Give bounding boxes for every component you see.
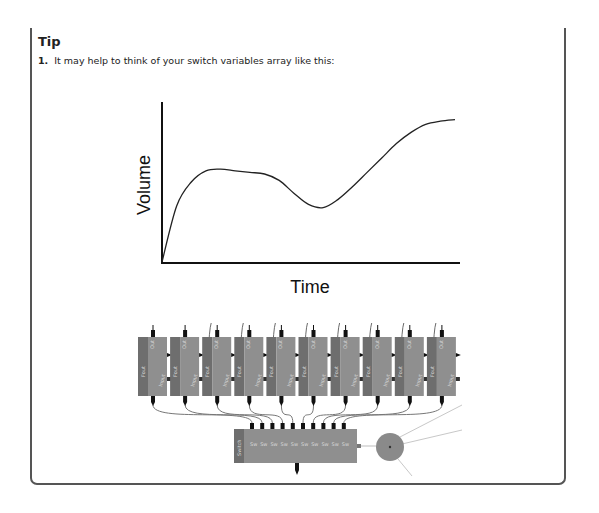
arrow-icon xyxy=(440,402,444,406)
array-input-terminal-icon xyxy=(321,423,325,429)
terminal-icon xyxy=(408,396,412,402)
y-axis-label: Volume xyxy=(134,155,154,215)
arrow-icon xyxy=(344,402,348,406)
x-axis-label: Time xyxy=(290,277,329,297)
arrow-icon xyxy=(279,402,283,406)
node-port-label: Out xyxy=(406,340,412,349)
array-input-terminal-icon xyxy=(270,423,274,429)
node-port-label: Out xyxy=(245,340,251,349)
terminal-icon xyxy=(357,444,361,448)
node-port-label: Out xyxy=(342,340,348,349)
node-label: Fout xyxy=(301,366,307,377)
array-input-label: Sw xyxy=(291,441,298,447)
terminal-icon xyxy=(312,396,316,402)
node-label: Fout xyxy=(204,366,210,377)
terminal-icon xyxy=(376,330,380,337)
figure: Volume Time FoutOutInputFoutOutInputFout… xyxy=(0,0,599,513)
array-input-label: Sw xyxy=(311,441,318,447)
node-label: Fout xyxy=(268,366,274,377)
terminal-icon xyxy=(151,396,155,402)
terminal-icon xyxy=(183,396,187,402)
array-input-terminal-icon xyxy=(260,423,264,429)
arrow-icon xyxy=(183,402,187,406)
arrow-icon xyxy=(408,402,412,406)
node-port-label: Out xyxy=(149,340,155,349)
terminal-icon xyxy=(440,330,444,337)
node-label: Fout xyxy=(333,366,339,377)
volume-curve xyxy=(162,120,455,262)
terminal-icon xyxy=(456,377,460,381)
arrow-icon xyxy=(376,402,380,406)
terminal-icon xyxy=(440,396,444,402)
node-label: Fout xyxy=(172,366,178,377)
terminal-icon xyxy=(151,330,155,337)
arrow-icon xyxy=(215,402,219,406)
terminal-icon xyxy=(344,330,348,337)
wire xyxy=(323,405,377,423)
circle-node-center xyxy=(389,446,391,448)
array-input-label: Sw xyxy=(342,441,349,447)
node-port-label: Out xyxy=(181,340,187,349)
terminal-icon xyxy=(215,396,219,402)
node-label: Fout xyxy=(397,366,403,377)
node-port-label: Out xyxy=(310,340,316,349)
node-port-label: Out xyxy=(213,340,219,349)
arrow-icon xyxy=(295,470,299,475)
array-input-label: Sw xyxy=(260,441,267,447)
terminal-icon xyxy=(183,330,187,337)
terminal-icon xyxy=(376,396,380,402)
array-input-terminal-icon xyxy=(250,423,254,429)
wire xyxy=(281,405,292,423)
terminal-icon xyxy=(247,330,251,337)
node-label: Fout xyxy=(140,366,146,377)
node-port-label: Out xyxy=(374,340,380,349)
wire xyxy=(402,430,462,444)
arrow-icon xyxy=(247,402,251,406)
node-label: Fout xyxy=(365,366,371,377)
array-input-label: Sw xyxy=(250,441,257,447)
array-input-terminal-icon xyxy=(291,423,295,429)
array-input-label: Sw xyxy=(332,441,339,447)
terminal-icon xyxy=(247,396,251,402)
wire xyxy=(313,405,345,423)
array-input-label: Sw xyxy=(321,441,328,447)
array-input-terminal-icon xyxy=(301,423,305,429)
array-input-terminal-icon xyxy=(311,423,315,429)
array-input-label: Sw xyxy=(281,441,288,447)
terminal-icon xyxy=(279,396,283,402)
terminal-icon xyxy=(215,330,219,337)
node-label: Fout xyxy=(429,366,435,377)
terminal-icon xyxy=(344,396,348,402)
node-port-label: Out xyxy=(438,340,444,349)
terminal-icon xyxy=(279,330,283,337)
array-input-label: Sw xyxy=(301,441,308,447)
switch-node-diagram: FoutOutInputFoutOutInputFoutOutInputFout… xyxy=(138,323,462,476)
wire xyxy=(303,405,314,423)
array-input-terminal-icon xyxy=(281,423,285,429)
array-input-label: Sw xyxy=(270,441,277,447)
volume-time-chart: Volume Time xyxy=(134,102,460,297)
array-output-terminal-icon xyxy=(295,463,299,470)
wire xyxy=(249,405,282,423)
node-port-label: Out xyxy=(277,340,283,349)
arrow-icon xyxy=(312,402,316,406)
array-input-terminal-icon xyxy=(332,423,336,429)
array-node-label: Switch xyxy=(236,439,242,456)
wire xyxy=(217,405,272,423)
terminal-icon xyxy=(312,330,316,337)
node-label: Fout xyxy=(236,366,242,377)
terminal-icon xyxy=(408,330,412,337)
arrow-icon xyxy=(456,353,461,357)
array-input-terminal-icon xyxy=(342,423,346,429)
arrow-icon xyxy=(151,402,155,406)
wire xyxy=(398,459,412,476)
